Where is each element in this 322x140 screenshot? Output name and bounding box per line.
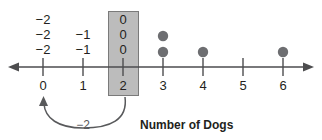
data-dot bbox=[158, 31, 168, 41]
data-dot bbox=[198, 47, 208, 57]
deviation-label-col0-line3: −2 bbox=[30, 42, 56, 57]
deviation-label-col1-line2: −1 bbox=[70, 42, 96, 57]
number-line-dot-plot-figure: −2 −2 −2 −1 −1 0 0 0 0 1 2 3 4 5 6 −2 Nu… bbox=[0, 0, 322, 140]
data-dot bbox=[278, 47, 288, 57]
axis-title: Number of Dogs bbox=[140, 118, 233, 132]
axis-arrow-left-icon bbox=[8, 63, 19, 72]
data-dot bbox=[158, 47, 168, 57]
tick-label-1: 1 bbox=[71, 78, 95, 93]
tick-label-0: 0 bbox=[31, 78, 55, 93]
zero-label-col2-line2: 0 bbox=[110, 27, 136, 42]
tick-label-3: 3 bbox=[151, 78, 175, 93]
axis-arrow-right-icon bbox=[303, 63, 314, 72]
tick-label-6: 6 bbox=[271, 78, 295, 93]
shift-annotation-label: −2 bbox=[68, 118, 98, 132]
tick-label-2: 2 bbox=[111, 78, 135, 93]
deviation-label-col1-line1: −1 bbox=[70, 27, 96, 42]
deviation-label-col0-line1: −2 bbox=[30, 12, 56, 27]
shift-arrow-head-icon bbox=[39, 96, 48, 106]
deviation-label-col0-line2: −2 bbox=[30, 27, 56, 42]
zero-label-col2-line1: 0 bbox=[110, 12, 136, 27]
tick-label-5: 5 bbox=[231, 78, 255, 93]
tick-label-4: 4 bbox=[191, 78, 215, 93]
zero-label-col2-line3: 0 bbox=[110, 42, 136, 57]
